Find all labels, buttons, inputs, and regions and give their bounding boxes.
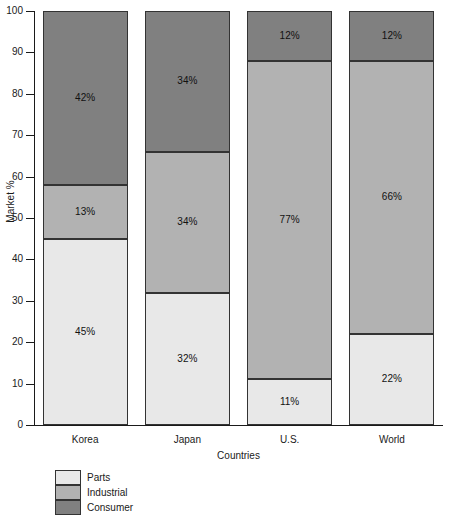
bar-segment-value-label: 11% [280,396,299,408]
bar-segment-value-label: 77% [280,214,300,226]
bar-segment-parts[interactable]: 11% [247,379,332,425]
x-axis-category-label: U.S. [247,433,332,446]
bar-segment-value-label: 12% [382,30,402,42]
bar-segment-industrial[interactable]: 34% [145,152,230,293]
y-axis-tick-label: 80 [0,87,23,100]
y-axis-tick-mark [26,177,34,178]
y-axis-tick-mark [26,259,34,260]
y-axis-tick-label: 10 [0,377,23,390]
y-axis-tick-mark [26,301,34,302]
bar-segment-parts[interactable]: 22% [349,334,434,425]
bar-segment-value-label: 34% [177,216,197,228]
bar-segment-parts[interactable]: 45% [43,239,128,425]
legend-item-industrial[interactable]: Industrial [55,485,255,500]
legend-swatch-industrial [55,485,81,500]
bar-segment-industrial[interactable]: 13% [43,185,128,239]
x-axis-title: Countries [34,450,443,461]
bar-segment-industrial[interactable]: 77% [247,61,332,380]
bar-segment-consumer[interactable]: 12% [247,11,332,61]
bar-segment-value-label: 22% [382,373,402,385]
bar-segment-industrial[interactable]: 66% [349,61,434,334]
y-axis-tick-mark [26,218,34,219]
bar-segment-parts[interactable]: 32% [145,293,230,425]
chart-legend: PartsIndustrialConsumer [55,470,255,515]
y-axis-tick-mark [26,11,34,12]
legend-label: Parts [87,471,110,484]
bar-segment-value-label: 34% [177,75,197,87]
y-axis-tick-mark [26,384,34,385]
stacked-bar-chart: 0102030405060708090100 Market % 45%13%42… [0,0,451,527]
bar-segment-value-label: 13% [75,206,95,218]
y-axis-tick-label: 0 [0,418,23,431]
legend-swatch-parts [55,470,81,485]
y-axis-tick-mark [26,425,34,426]
bar-segment-consumer[interactable]: 34% [145,11,230,152]
bar-segment-value-label: 42% [75,92,95,104]
bar-group-korea[interactable]: 45%13%42% [43,11,128,425]
y-axis-tick-label: 100 [0,4,23,17]
y-axis-tick-label: 20 [0,335,23,348]
bar-segment-value-label: 66% [382,191,402,203]
y-axis-tick-label: 30 [0,294,23,307]
legend-item-parts[interactable]: Parts [55,470,255,485]
y-axis-tick-mark [26,52,34,53]
y-axis-title: Market % [5,172,16,232]
bar-segment-value-label: 12% [280,30,300,42]
legend-swatch-consumer [55,500,81,515]
y-axis-tick-label: 40 [0,252,23,265]
bar-group-us[interactable]: 11%77%12% [247,11,332,425]
bar-group-world[interactable]: 22%66%12% [349,11,434,425]
x-axis-category-label: Korea [43,433,128,446]
y-axis-tick-mark [26,94,34,95]
y-axis-tick-label: 90 [0,45,23,58]
bar-group-japan[interactable]: 32%34%34% [145,11,230,425]
legend-item-consumer[interactable]: Consumer [55,500,255,515]
x-axis-category-label: Japan [145,433,230,446]
y-axis-tick-label: 70 [0,128,23,141]
x-axis-category-label: World [349,433,434,446]
y-axis-tick-mark [26,342,34,343]
x-axis-line [34,425,443,426]
bar-segment-value-label: 32% [177,353,197,365]
y-axis-tick-mark [26,135,34,136]
bar-segment-consumer[interactable]: 12% [349,11,434,61]
legend-label: Consumer [87,501,133,514]
bar-segment-value-label: 45% [75,326,95,338]
bar-segment-consumer[interactable]: 42% [43,11,128,185]
legend-label: Industrial [87,486,128,499]
plot-area: 45%13%42%32%34%34%11%77%12%22%66%12% [34,11,443,425]
